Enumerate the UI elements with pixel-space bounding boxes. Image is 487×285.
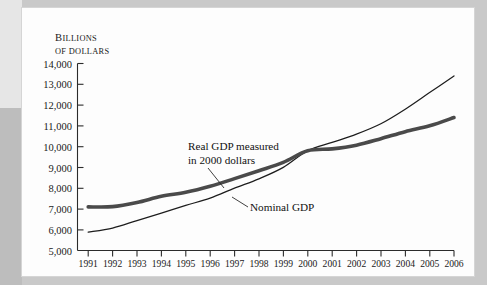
x-tick-label: 1998 <box>249 258 268 269</box>
y-axis-tick-labels: 14,000 13,000 12,000 11,000 10,000 9,000… <box>43 59 72 257</box>
y-tick-label: 13,000 <box>43 79 72 90</box>
x-tick-label: 2001 <box>323 258 342 269</box>
figure-container: BILLIONS OF DOLLARS 14,000 13,000 12,000… <box>0 0 487 285</box>
y-tick-label: 11,000 <box>44 121 73 132</box>
annotation-nominal-gdp: Nominal GDP <box>250 201 314 213</box>
x-tick-label: 1995 <box>176 258 195 269</box>
x-tick-label: 1994 <box>152 258 171 269</box>
x-tick-label: 2002 <box>347 258 366 269</box>
y-tick-label: 7,000 <box>48 204 72 215</box>
x-tick-label: 1993 <box>127 258 146 269</box>
y-tick-label: 9,000 <box>48 163 72 174</box>
annotation-real-gdp-line1: Real GDP measured <box>188 140 279 152</box>
x-tick-label: 2000 <box>298 258 317 269</box>
plot-area: BILLIONS OF DOLLARS 14,000 13,000 12,000… <box>22 8 474 276</box>
x-tick-label: 2003 <box>371 258 390 269</box>
y-tick-label: 10,000 <box>43 142 72 153</box>
x-tick-label: 2004 <box>396 258 415 269</box>
y-axis-title-line2: OF DOLLARS <box>55 47 109 56</box>
leader-line-nominal-gdp <box>232 197 248 207</box>
chart-page: BILLIONS OF DOLLARS 14,000 13,000 12,000… <box>22 8 474 276</box>
y-tick-label: 5,000 <box>48 246 72 257</box>
x-axis-tick-labels: 1991 1992 1993 1994 1995 1996 1997 1998 … <box>79 258 464 269</box>
y-tick-label: 12,000 <box>43 100 72 111</box>
x-tick-label: 2005 <box>420 258 439 269</box>
page-gutter-left-highlight <box>0 0 22 108</box>
y-tick-label: 6,000 <box>48 225 72 236</box>
y-tick-label: 8,000 <box>48 183 72 194</box>
x-tick-label: 1999 <box>274 258 293 269</box>
series-line-real-gdp <box>88 118 454 208</box>
gdp-line-chart: BILLIONS OF DOLLARS 14,000 13,000 12,000… <box>22 8 474 276</box>
x-tick-label: 2006 <box>444 258 463 269</box>
x-tick-label: 1992 <box>103 258 122 269</box>
y-axis-title-line1: BILLIONS <box>55 32 97 43</box>
y-axis-ticks <box>78 64 84 230</box>
y-tick-label: 14,000 <box>43 59 72 70</box>
x-tick-label: 1996 <box>201 258 220 269</box>
x-tick-label: 1997 <box>225 258 244 269</box>
x-tick-label: 1991 <box>79 258 98 269</box>
annotation-real-gdp-line2: in 2000 dollars <box>188 154 255 166</box>
x-axis-ticks <box>88 251 454 257</box>
